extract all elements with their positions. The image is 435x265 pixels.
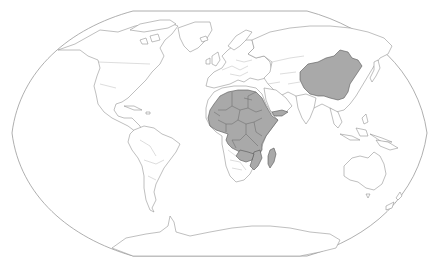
world-map (0, 0, 435, 265)
